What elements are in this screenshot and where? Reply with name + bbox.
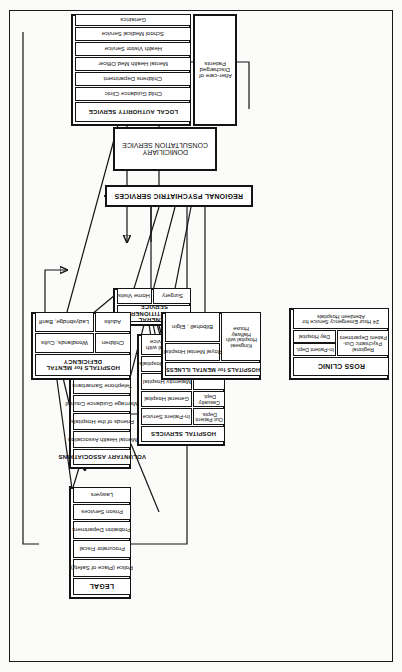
local-authority-item-6[interactable]: After-care of Discharged Patients: [197, 18, 233, 122]
mental-illness-sub-royal[interactable]: Royal Mental Hospital: [165, 343, 220, 361]
local-authority-item-1[interactable]: Childrens Department: [75, 72, 191, 86]
legal-item-3[interactable]: Prison Services: [73, 504, 131, 520]
mental-illness-header: HOSPITALS for MENTAL ILLNESS: [165, 362, 261, 376]
voluntary-header: VOLUNTARY ASSOCIATIONS: [73, 449, 131, 465]
local-authority-item-3[interactable]: Health Visitor Service: [75, 42, 191, 56]
node-local-authority-aftercare[interactable]: After-care of Discharged Patients: [193, 14, 237, 126]
node-legal[interactable]: LEGAL Police (Place of Safety) Procurato…: [69, 487, 131, 599]
mental-deficiency-row-1-right[interactable]: Ladysbridge, Banff: [35, 312, 94, 332]
local-authority-item-0[interactable]: Child Guidance Clinic: [75, 87, 191, 101]
ross-clinic-main[interactable]: Regional Psychiatric Out-Patient Departm…: [337, 330, 389, 356]
ross-clinic-emergency[interactable]: 24 Hour Emergency Service for Aberdeen H…: [293, 308, 389, 329]
voluntary-item-2[interactable]: Marriage Guidance Council: [73, 395, 131, 412]
node-regional-psychiatric-services[interactable]: REGIONAL PSYCHIATRIC SERVICES: [105, 185, 253, 207]
legal-item-4[interactable]: Lawyers: [73, 487, 131, 503]
regional-psychiatric-label: REGIONAL PSYCHIATRIC SERVICES: [108, 188, 250, 204]
mental-illness-sub-bilbohall[interactable]: Bilbohall , Elgin: [165, 312, 220, 342]
legal-item-2[interactable]: Probation Department: [73, 521, 131, 539]
mental-deficiency-row-0-left[interactable]: Children: [95, 333, 131, 353]
legal-item-0[interactable]: Police (Place of Safety): [73, 559, 131, 577]
legal-header: LEGAL: [73, 578, 131, 595]
ross-clinic-sub-day-hospital[interactable]: Day Hospital: [293, 330, 336, 343]
ross-clinic-header: ROSS CLINIC: [293, 357, 389, 376]
local-authority-header: LOCAL AUTHORITY SERVICE: [75, 102, 191, 122]
local-authority-item-2[interactable]: Mental Health Med.Officer: [75, 57, 191, 71]
gp-item-surgery[interactable]: Surgery: [153, 288, 191, 304]
voluntary-item-0[interactable]: Mental Health Association: [73, 431, 131, 448]
flowchart-stage: PATIENT LEGAL Police (Place of Safety) P…: [9, 10, 393, 662]
domiciliary-label: DOMICILIARY CONSULTATION SERVICE: [117, 131, 213, 167]
scanned-page: PATIENT LEGAL Police (Place of Safety) P…: [0, 0, 402, 672]
gp-item-home-visits[interactable]: Home Visits: [117, 288, 152, 304]
node-hospitals-mental-deficiency[interactable]: HOSPITALS for MENTAL DEFICIENCY Children…: [31, 312, 131, 380]
hospital-item-in-patient[interactable]: In-Patient Service: [141, 408, 192, 425]
hospital-services-header: HOSPITAL SERVICES: [141, 426, 225, 442]
local-authority-item-5[interactable]: Geriatrics: [75, 14, 191, 26]
mental-deficiency-row-1-left[interactable]: Adults: [95, 312, 131, 332]
legal-item-1[interactable]: Procurator Fiscal: [73, 540, 131, 558]
ross-clinic-sub-in-patient[interactable]: In-Patient Dept.: [293, 343, 336, 356]
hospital-sub-casualty[interactable]: Casualty Dept.: [193, 391, 225, 407]
hospital-sub-out-patient[interactable]: Out Patient Depts.: [193, 408, 225, 425]
hospital-item-general[interactable]: General Hospital: [141, 391, 192, 407]
mental-illness-main[interactable]: Kingseat Hospital with Halfway House: [221, 312, 261, 361]
node-domiciliary-consultation-service[interactable]: DOMICILIARY CONSULTATION SERVICE: [113, 127, 217, 171]
local-authority-item-4[interactable]: School Medical Service: [75, 27, 191, 41]
mental-deficiency-row-0-right[interactable]: Woodlands, Cults: [35, 333, 94, 353]
voluntary-item-1[interactable]: Friends of the Hospitals: [73, 413, 131, 430]
node-local-authority-service[interactable]: LOCAL AUTHORITY SERVICE Child Guidance C…: [71, 14, 191, 126]
node-hospitals-mental-illness[interactable]: HOSPITALS for MENTAL ILLNESS Kingseat Ho…: [161, 312, 261, 380]
node-ross-clinic[interactable]: ROSS CLINIC Regional Psychiatric Out-Pat…: [289, 308, 389, 380]
mental-deficiency-header: HOSPITALS for MENTAL DEFICIENCY: [35, 354, 131, 376]
